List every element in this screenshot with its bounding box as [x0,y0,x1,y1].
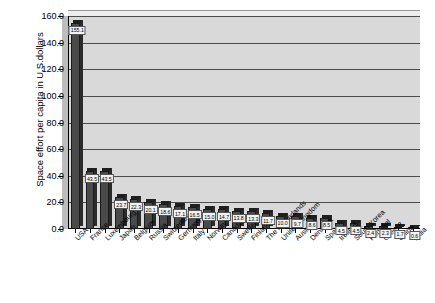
bar[interactable] [276,16,285,229]
y-tick-mark [58,176,63,177]
y-axis-title: Space effort per capita in U.S.dollars [34,0,45,225]
y-tick-mark [58,229,63,230]
bar-value-label: 20.1 [144,205,158,214]
bar[interactable] [174,16,183,229]
bar[interactable] [188,16,197,229]
y-tick-mark [58,202,63,203]
bar-value-label: 22.3 [129,202,143,211]
bar-value-label: 2.4 [365,229,376,238]
bar-front-face [71,23,80,229]
y-tick-mark [58,43,63,44]
bar[interactable] [71,16,80,229]
y-tick-mark [58,16,63,17]
y-tick-mark [58,69,63,70]
bar-value-label: 4.5 [336,226,347,235]
bar-side-face [80,20,83,226]
y-tick-mark [58,123,63,124]
bar[interactable] [144,16,153,229]
bar[interactable] [364,16,373,229]
bar-value-label: 13.8 [232,214,246,223]
bar[interactable] [247,16,256,229]
bar[interactable] [130,16,139,229]
bar[interactable] [115,16,124,229]
bar[interactable] [379,16,388,229]
bar[interactable] [86,16,95,229]
y-tick-mark [58,149,63,150]
bar-value-label: 23.7 [114,200,128,209]
bar-value-label: 8.6 [306,221,317,230]
bar-value-label: 18.6 [158,207,172,216]
bar-value-label: 11.7 [261,216,275,225]
bar[interactable] [262,16,271,229]
bar-value-label: 17.1 [173,209,187,218]
bar[interactable] [350,16,359,229]
bar[interactable] [100,16,109,229]
bar-value-label: 0.6 [409,231,420,240]
bar-value-label: 1.7 [394,230,405,239]
bar-value-label: 43.5 [85,174,99,183]
bar[interactable] [159,16,168,229]
bar[interactable] [203,16,212,229]
bar-value-label: 2.3 [380,229,391,238]
bar-value-label: 4.5 [350,226,361,235]
bar-value-label: 16.5 [188,210,202,219]
bar-value-label: 13.3 [246,214,260,223]
bar-value-label: 155.1 [69,26,86,35]
bar-value-label: 9.7 [292,219,303,228]
bar-chart: Space effort per capita in U.S.dollars 0… [0,0,435,303]
bar[interactable] [408,16,417,229]
bar[interactable] [232,16,241,229]
bar-value-label: 10.0 [276,219,290,228]
bar-value-label: 8.5 [321,221,332,230]
bar[interactable] [335,16,344,229]
y-tick-mark [58,96,63,97]
bar[interactable] [291,16,300,229]
bar-value-label: 14.7 [217,212,231,221]
bar[interactable] [320,16,329,229]
bar-value-label: 15.0 [202,212,216,221]
bar[interactable] [306,16,315,229]
bar[interactable] [394,16,403,229]
bar-value-label: 43.5 [100,174,114,183]
bars-layer [68,16,420,229]
bar[interactable] [218,16,227,229]
